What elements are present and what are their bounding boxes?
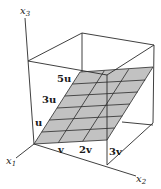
x3-label: x3	[20, 5, 31, 18]
label-u: u	[35, 117, 42, 128]
label-v: v	[57, 144, 65, 155]
label-3v: 3v	[109, 146, 123, 157]
label-5u: 5u	[57, 73, 71, 84]
span-plane-diagram: x3 x1 x2 u 3u 5u v 2v 3v	[0, 0, 161, 189]
plane-surface	[34, 67, 153, 144]
x2-label: x2	[136, 173, 147, 186]
x1-axis	[16, 144, 34, 158]
label-2v: 2v	[79, 144, 93, 155]
label-3u: 3u	[42, 94, 56, 105]
x1-label: x1	[6, 155, 16, 168]
x3-axis	[25, 18, 34, 144]
